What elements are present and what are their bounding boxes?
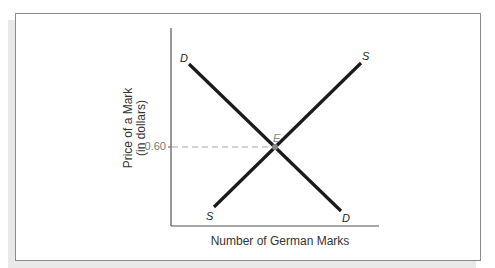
x-axis-label: Number of German Marks bbox=[171, 234, 389, 248]
demand-label-top: D bbox=[180, 52, 188, 64]
demand-label-bottom: D bbox=[342, 212, 350, 224]
y-axis-label-line2: (in dollars) bbox=[135, 68, 148, 188]
y-axis-label: Price of a Mark (in dollars) bbox=[122, 68, 148, 188]
figure-stage: Price of a Mark (in dollars) 0.60 Number… bbox=[0, 0, 495, 268]
equilibrium-point bbox=[272, 144, 278, 150]
supply-label-top: S bbox=[362, 50, 369, 62]
demand-curve bbox=[189, 64, 341, 211]
supply-label-bottom: S bbox=[206, 210, 213, 222]
y-tick-label-060: 0.60 bbox=[136, 140, 166, 152]
supply-demand-plot bbox=[0, 0, 495, 268]
equilibrium-label: E bbox=[273, 132, 280, 144]
supply-curve bbox=[214, 63, 361, 207]
